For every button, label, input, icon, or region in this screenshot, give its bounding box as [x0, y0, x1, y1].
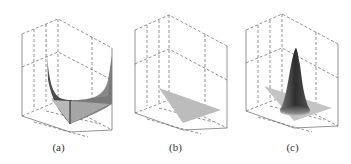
panel-c-caption: (c)	[234, 141, 351, 153]
surface-plot-a	[0, 0, 117, 164]
panel-b: (b)	[117, 0, 234, 164]
surface-plot-c	[234, 0, 351, 164]
panel-b-caption: (b)	[117, 141, 234, 153]
panel-c: (c)	[234, 0, 351, 164]
surface-a	[46, 30, 112, 124]
panel-a: (a)	[0, 0, 117, 164]
surface-b	[159, 88, 221, 123]
surface-c	[264, 48, 332, 121]
panel-a-caption: (a)	[0, 141, 117, 153]
surface-plot-b	[117, 0, 234, 164]
